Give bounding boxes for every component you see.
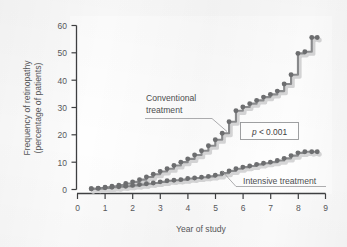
retinopathy-step-chart: 60 50 40 30 20 10 0 Frequency of retinop… — [0, 0, 347, 247]
data-point — [171, 163, 176, 168]
data-point — [103, 185, 108, 190]
x-tick-label-0: 0 — [75, 203, 80, 213]
data-point — [192, 153, 197, 158]
chart-figure: 60 50 40 30 20 10 0 Frequency of retinop… — [0, 0, 347, 247]
conventional-label-line2: treatment — [146, 105, 183, 115]
data-point — [261, 95, 266, 100]
x-tick-label-5: 5 — [213, 203, 218, 213]
data-point — [268, 92, 273, 97]
data-point — [254, 162, 259, 167]
y-axis-title-line2: (percentage of patients) — [33, 62, 43, 153]
data-point — [192, 176, 197, 181]
data-point — [275, 89, 280, 94]
data-point — [151, 172, 156, 177]
data-point — [289, 72, 294, 77]
data-point — [178, 177, 183, 182]
y-tick-label-20: 20 — [58, 130, 68, 140]
data-point — [144, 181, 149, 186]
data-point — [116, 184, 121, 189]
data-point — [247, 101, 252, 106]
pvalue-text: p < 0.001 — [251, 127, 288, 137]
y-tick-label-50: 50 — [58, 48, 68, 58]
data-point — [199, 148, 204, 153]
y-axis: 60 50 40 30 20 10 0 Frequency of retinop… — [22, 21, 77, 195]
data-point — [233, 108, 238, 113]
conventional-label-line1: Conventional — [146, 93, 196, 103]
y-tick-label-0: 0 — [62, 185, 67, 195]
data-point — [213, 173, 218, 178]
y-axis-title-line1: Frequency of retinopathy — [22, 60, 32, 156]
plot-panel — [70, 16, 332, 194]
data-point — [240, 105, 245, 110]
x-tick-label-8: 8 — [296, 203, 301, 213]
data-point — [309, 149, 314, 154]
data-point — [137, 182, 142, 187]
y-tick-label-60: 60 — [58, 21, 68, 31]
data-point — [315, 149, 320, 154]
data-point — [158, 179, 163, 184]
data-point — [275, 158, 280, 163]
data-point — [309, 35, 314, 40]
data-point — [254, 98, 259, 103]
data-point — [295, 150, 300, 155]
data-point — [261, 161, 266, 166]
data-point — [96, 186, 101, 191]
data-point — [178, 160, 183, 165]
data-point — [165, 178, 170, 183]
data-point — [295, 51, 300, 56]
pvalue-box: p < 0.001 — [241, 123, 299, 140]
pvalue-rest: < 0.001 — [257, 127, 288, 137]
data-point — [240, 165, 245, 170]
data-point — [302, 49, 307, 54]
y-tick-label-40: 40 — [58, 76, 68, 86]
data-point — [185, 176, 190, 181]
data-point — [206, 143, 211, 148]
y-tick-label-10: 10 — [58, 158, 68, 168]
data-point — [289, 153, 294, 158]
y-tick-label-30: 30 — [58, 103, 68, 113]
x-axis: 0 1 2 3 4 5 6 7 8 9 Year of study — [75, 194, 328, 235]
x-tick-label-7: 7 — [268, 203, 273, 213]
x-tick-label-1: 1 — [103, 203, 108, 213]
data-point — [185, 156, 190, 161]
data-point — [206, 174, 211, 179]
x-tick-label-9: 9 — [323, 203, 328, 213]
data-point — [89, 186, 94, 191]
data-point — [144, 174, 149, 179]
data-point — [171, 178, 176, 183]
x-tick-label-2: 2 — [130, 203, 135, 213]
x-tick-label-4: 4 — [186, 203, 191, 213]
data-point — [247, 164, 252, 169]
x-tick-label-3: 3 — [158, 203, 163, 213]
data-point — [151, 180, 156, 185]
data-point — [199, 175, 204, 180]
data-point — [109, 185, 114, 190]
data-point — [123, 184, 128, 189]
data-point — [282, 156, 287, 161]
data-point — [315, 35, 320, 40]
data-point — [282, 82, 287, 87]
data-point — [130, 183, 135, 188]
data-point — [227, 119, 232, 124]
data-point — [227, 168, 232, 173]
data-point — [158, 169, 163, 174]
x-tick-label-6: 6 — [241, 203, 246, 213]
data-point — [165, 166, 170, 171]
intensive-label: Intensive treatment — [243, 176, 317, 186]
data-point — [213, 137, 218, 142]
data-point — [302, 149, 307, 154]
data-point — [233, 166, 238, 171]
data-point — [220, 131, 225, 136]
data-point — [137, 177, 142, 182]
data-point — [268, 160, 273, 165]
x-axis-title: Year of study — [176, 224, 227, 234]
